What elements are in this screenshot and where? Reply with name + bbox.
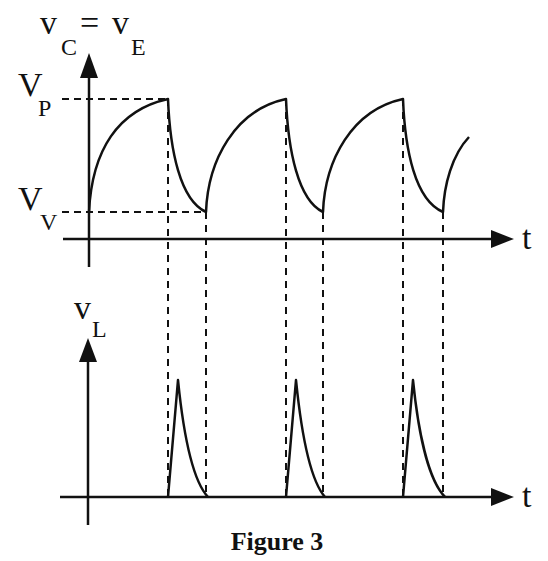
vc-waveform (89, 99, 469, 212)
bottom-plot: v L t (60, 289, 532, 525)
top-plot: v C = v E V P V V t (18, 4, 532, 267)
top-y-label-sub-e: E (131, 34, 146, 60)
bottom-x-label-t: t (522, 477, 532, 514)
bottom-y-label-v: v (74, 289, 91, 326)
bottom-y-label-sub-l: L (92, 316, 107, 342)
top-y-label-v-left: v (40, 4, 57, 41)
transition-guides (168, 99, 443, 497)
vp-label-sub: P (38, 95, 51, 121)
bottom-x-axis-arrow-icon (491, 488, 514, 506)
top-y-axis-arrow-icon (80, 53, 98, 78)
top-y-label-equals: = (80, 4, 99, 41)
top-y-label-sub-c: C (61, 34, 77, 60)
figure-caption: Figure 3 (231, 527, 324, 556)
figure-canvas: v C = v E V P V V t v L t Figure 3 (0, 0, 548, 561)
top-y-label-v-right: v (112, 4, 129, 41)
top-x-label-t: t (522, 219, 532, 256)
vl-pulse-3 (403, 380, 445, 497)
top-x-axis-arrow-icon (491, 230, 514, 248)
vl-pulse-1 (168, 380, 208, 497)
vv-label-sub: V (40, 209, 58, 235)
vl-pulse-2 (286, 380, 325, 497)
